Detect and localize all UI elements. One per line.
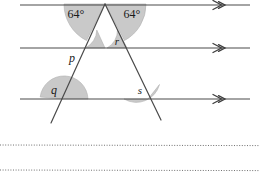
angle-64-left-label: 64° xyxy=(68,7,85,21)
geometry-figure: 64° 64° p r q s xyxy=(0,0,260,177)
angle-q-label: q xyxy=(51,83,57,97)
dotted-rules-group xyxy=(0,145,260,171)
dotted-rule-lower xyxy=(0,170,260,171)
angle-64-right-label: 64° xyxy=(124,7,141,21)
dotted-rule-upper xyxy=(0,145,260,146)
figure-container: 64° 64° p r q s xyxy=(0,0,260,177)
transversals-group xyxy=(51,4,161,123)
angle-p-label: p xyxy=(68,51,75,65)
angle-s-label: s xyxy=(138,84,142,96)
arrow-markers-group xyxy=(213,1,225,104)
angle-r-label: r xyxy=(115,35,120,47)
